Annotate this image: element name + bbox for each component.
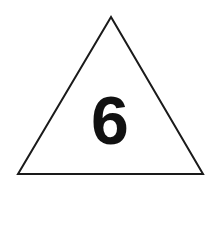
- sign-number: 6: [0, 86, 217, 154]
